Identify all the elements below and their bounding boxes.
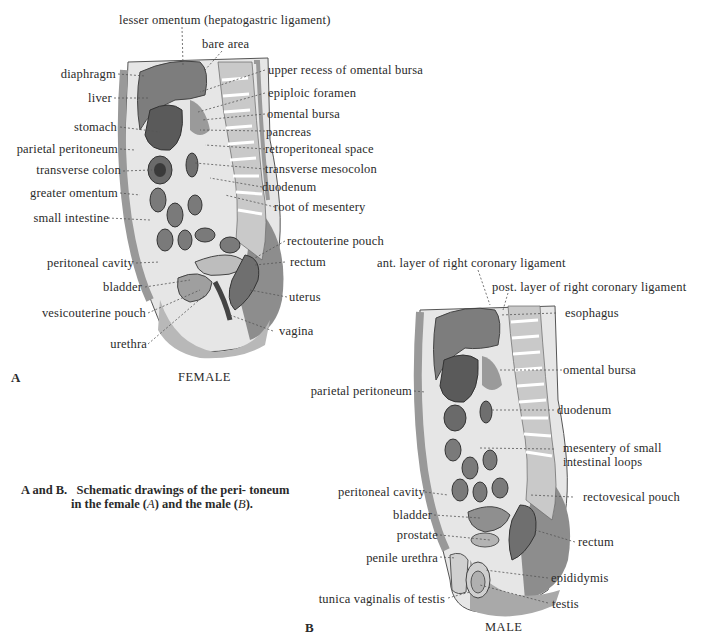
male-section-drawing xyxy=(418,306,570,616)
label-ant-layer-right-coronary-ligament: ant. layer of right coronary ligament xyxy=(377,256,566,270)
figure-caption: A and B. Schematic drawings of the peri-… xyxy=(21,483,291,511)
label-epiploic-foramen: epiploic foramen xyxy=(268,86,356,100)
label-prostate: prostate xyxy=(397,528,438,542)
label-mesentery-line1: mesentery of small xyxy=(563,441,662,455)
label-bare-area: bare area xyxy=(202,37,249,51)
label-retroperitoneal-space: retroperitoneal space xyxy=(265,142,374,156)
label-omental-bursa-a: omental bursa xyxy=(267,107,340,121)
label-vesicouterine-pouch: vesicouterine pouch xyxy=(42,306,146,320)
label-bladder-a: bladder xyxy=(103,280,142,294)
label-upper-recess-omental-bursa: upper recess of omental bursa xyxy=(268,63,423,77)
label-root-of-mesentery: root of mesentery xyxy=(274,200,366,214)
figure-a-letter: A xyxy=(11,370,20,386)
label-duodenum-b: duodenum xyxy=(557,403,611,417)
caption-a-ref: A xyxy=(147,497,155,511)
label-rectovesical-pouch: rectovesical pouch xyxy=(583,490,680,504)
label-lesser-omentum: lesser omentum (hepatogastric ligament) xyxy=(119,13,331,27)
label-stomach: stomach xyxy=(74,120,117,134)
label-pancreas: pancreas xyxy=(266,125,311,139)
label-penile-urethra: penile urethra xyxy=(366,551,438,565)
label-duodenum-a: duodenum xyxy=(262,180,316,194)
label-vagina: vagina xyxy=(279,324,314,338)
label-diaphragm: diaphragm xyxy=(61,67,116,81)
caption-text-5: ). xyxy=(246,497,253,511)
label-epididymis: epididymis xyxy=(551,571,609,585)
caption-text-3: ) and the male xyxy=(155,497,231,511)
figure-b-letter: B xyxy=(305,620,314,636)
label-tunica-vaginalis-of-testis: tunica vaginalis of testis xyxy=(319,592,445,606)
label-mesentery-line2: intestinal loops xyxy=(563,455,642,469)
label-peritoneal-cavity-a: peritoneal cavity xyxy=(47,256,134,270)
label-testis: testis xyxy=(552,597,579,611)
label-omental-bursa-b: omental bursa xyxy=(563,363,636,377)
label-liver: liver xyxy=(88,91,112,105)
label-greater-omentum: greater omentum xyxy=(30,186,118,200)
caption-text-1: Schematic drawings of the peri- xyxy=(77,483,246,497)
label-small-intestine: small intestine xyxy=(33,211,109,225)
label-transverse-mesocolon: transverse mesocolon xyxy=(265,162,377,176)
label-urethra: urethra xyxy=(110,337,147,351)
label-esophagus: esophagus xyxy=(565,306,619,320)
figure-b-sex-label: MALE xyxy=(485,620,522,635)
label-parietal-peritoneum-a: parietal peritoneum xyxy=(17,142,118,156)
label-bladder-b: bladder xyxy=(393,508,432,522)
label-rectum-b: rectum xyxy=(578,535,614,549)
label-uterus: uterus xyxy=(289,290,321,304)
caption-b-ref: B xyxy=(238,497,246,511)
label-peritoneal-cavity-b: peritoneal cavity xyxy=(338,485,425,499)
label-mesentery-small-intestinal-loops: mesentery of small intestinal loops xyxy=(563,441,662,469)
female-section-drawing xyxy=(122,58,284,358)
label-rectum-a: rectum xyxy=(290,255,326,269)
label-parietal-peritoneum-b: parietal peritoneum xyxy=(311,384,412,398)
label-post-layer-right-coronary-ligament: post. layer of right coronary ligament xyxy=(492,280,686,294)
figure-a-sex-label: FEMALE xyxy=(178,370,231,385)
label-transverse-colon: transverse colon xyxy=(36,163,121,177)
caption-lead: A and B. xyxy=(21,483,67,497)
label-rectouterine-pouch: rectouterine pouch xyxy=(287,234,384,248)
